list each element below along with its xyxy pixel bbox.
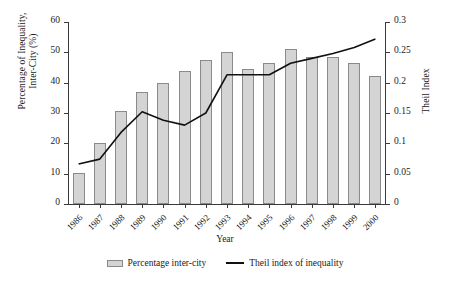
legend-label-line: Theil index of inequality (249, 258, 343, 268)
line-series (68, 22, 386, 205)
line-swatch-icon (226, 262, 244, 264)
y-tick-label-right: 0.25 (394, 45, 440, 55)
x-tick (248, 204, 249, 208)
y-tick-label-left: 50 (20, 45, 60, 55)
chart-figure: Percentage of Inequality, Inter-City (%)… (0, 0, 450, 285)
theil-index-line (79, 39, 376, 164)
y-tick-label-right: 0.05 (394, 167, 440, 177)
y-tick-label-right: 0.15 (394, 106, 440, 116)
plot-area: 0102030405060 00.050.10.150.20.250.3 198… (68, 22, 386, 205)
x-tick (291, 204, 292, 208)
x-tick (333, 204, 334, 208)
x-tick (100, 204, 101, 208)
x-tick (142, 204, 143, 208)
chart-legend: Percentage inter-city Theil index of ine… (0, 258, 450, 268)
y-tick-label-left: 10 (20, 167, 60, 177)
y-tick-label-right: 0.3 (394, 15, 440, 25)
x-tick (206, 204, 207, 208)
x-tick (312, 204, 313, 208)
x-tick (354, 204, 355, 208)
x-tick (375, 204, 376, 208)
x-tick (79, 204, 80, 208)
y-tick-label-right: 0 (394, 197, 440, 207)
bar-swatch-icon (107, 260, 123, 267)
legend-label-bar: Percentage inter-city (128, 258, 207, 268)
y-tick-label-left: 60 (20, 15, 60, 25)
x-tick (163, 204, 164, 208)
y-tick-label-left: 40 (20, 76, 60, 86)
y-tick-label-left: 20 (20, 136, 60, 146)
x-tick (185, 204, 186, 208)
x-tick (269, 204, 270, 208)
x-tick (227, 204, 228, 208)
y-tick-label-left: 30 (20, 106, 60, 116)
x-tick (121, 204, 122, 208)
y-tick-label-right: 0.1 (394, 136, 440, 146)
y-tick-label-right: 0.2 (394, 76, 440, 86)
legend-item-line: Theil index of inequality (226, 258, 343, 268)
y-tick-label-left: 0 (20, 197, 60, 207)
legend-item-bar: Percentage inter-city (107, 258, 207, 268)
